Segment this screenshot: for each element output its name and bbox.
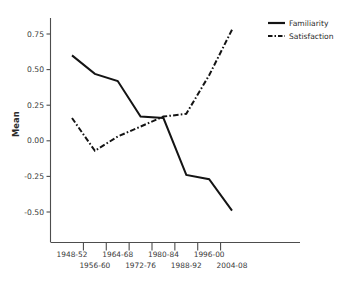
y-tick-label: 0.00: [27, 136, 44, 145]
y-tick-label: -0.50: [24, 208, 44, 217]
x-tick-label: 1980-84: [148, 250, 179, 259]
x-tick-label: 1988-92: [171, 261, 202, 270]
y-tick-label: 0.25: [27, 101, 44, 110]
y-tick-label: 0.50: [27, 65, 44, 74]
x-tick-label: 1996-00: [194, 250, 225, 259]
x-tick-label: 1956-60: [79, 261, 110, 270]
legend-label-satisfaction: Satisfaction: [289, 32, 334, 41]
y-tick-label: 0.75: [27, 30, 44, 39]
x-tick-label: 2004-08: [217, 261, 248, 270]
line-chart: 0.750.500.250.00-0.25-0.50 1948-521956-6…: [0, 0, 337, 286]
x-tick-label: 1972-76: [125, 261, 156, 270]
x-tick-label: 1964-68: [102, 250, 133, 259]
x-axis-tick-labels: 1948-521956-601964-681972-761980-841988-…: [57, 250, 248, 270]
y-tick-label: -0.25: [24, 172, 44, 181]
y-axis-title: Mean: [11, 111, 21, 137]
x-tick-label: 1948-52: [57, 250, 88, 259]
legend-label-familiarity: Familiarity: [289, 19, 329, 28]
